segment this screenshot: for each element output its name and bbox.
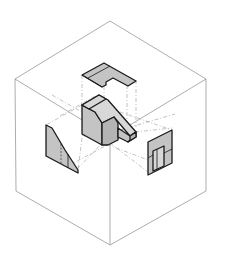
diagram-canvas: [0, 0, 227, 257]
glass-box-diagram: Orthographic projection glass-box: isome…: [0, 0, 227, 257]
central-object: [82, 95, 136, 145]
side-view-slot: [153, 146, 164, 171]
front-view: [46, 125, 78, 173]
object-slot: [102, 117, 118, 145]
top-view: [82, 63, 136, 87]
side-view: [148, 130, 172, 175]
front-view-shape: [46, 125, 78, 173]
